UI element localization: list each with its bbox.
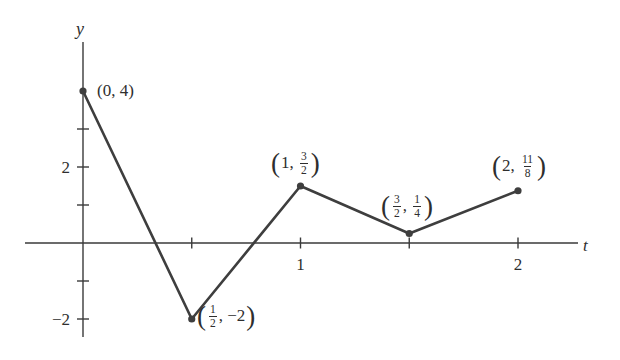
figure: 122−2 y t (0, 4) ( 1 2 , −2 ) ( 1, 3 2 )…	[0, 0, 620, 360]
fraction-one-half: 1 2	[209, 303, 217, 330]
point-label-text: , −2	[219, 307, 246, 326]
t-axis-label: t	[583, 237, 588, 254]
point-label-text: (0, 4)	[97, 82, 134, 101]
point-label-text: 1,	[281, 154, 298, 173]
fraction-three-halves: 3 2	[300, 150, 308, 177]
numerator: 3	[393, 193, 401, 206]
close-paren: )	[245, 303, 256, 330]
close-paren: )	[310, 150, 321, 177]
data-point-marker	[406, 230, 413, 237]
denominator: 2	[300, 163, 308, 177]
point-label-text: 2,	[502, 157, 519, 176]
data-polyline	[83, 91, 518, 319]
data-point-marker	[297, 182, 304, 189]
close-paren: )	[423, 193, 434, 220]
numerator: 11	[521, 153, 534, 166]
denominator: 2	[393, 206, 401, 220]
open-paren: (	[270, 150, 281, 177]
fraction-three-halves: 3 2	[393, 193, 401, 220]
point-label-text: ,	[403, 197, 412, 216]
denominator: 8	[524, 166, 532, 180]
point-label-0-4: (0, 4)	[97, 82, 134, 101]
data-point-marker	[188, 315, 195, 322]
close-paren: )	[536, 153, 547, 180]
t-tick-label: 1	[296, 255, 305, 274]
open-paren: (	[380, 193, 391, 220]
denominator: 2	[209, 316, 217, 330]
numerator: 1	[413, 193, 421, 206]
numerator: 3	[300, 150, 308, 163]
point-label-2-elevEighths: ( 2, 11 8 )	[491, 153, 547, 180]
denominator: 4	[413, 206, 421, 220]
point-label-threehalves-quarter: ( 3 2 , 1 4 )	[380, 193, 434, 220]
y-tick-label: −2	[52, 310, 70, 329]
fraction-eleven-eighths: 11 8	[521, 153, 534, 180]
fraction-one-quarter: 1 4	[413, 193, 421, 220]
point-label-half-neg2: ( 1 2 , −2 )	[196, 303, 256, 330]
numerator: 1	[209, 303, 217, 316]
y-tick-label: 2	[62, 158, 71, 177]
data-point-marker	[79, 87, 86, 94]
point-label-1-threehalves: ( 1, 3 2 )	[270, 150, 321, 177]
t-tick-label: 2	[514, 255, 523, 274]
open-paren: (	[196, 303, 207, 330]
data-point-marker	[514, 187, 521, 194]
y-axis-label: y	[76, 20, 84, 38]
open-paren: (	[491, 153, 502, 180]
